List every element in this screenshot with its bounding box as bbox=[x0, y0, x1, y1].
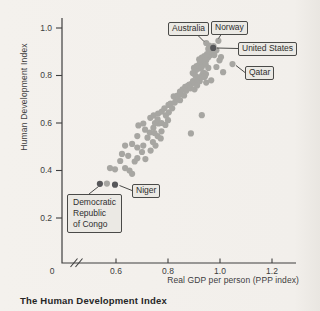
leader-australia bbox=[198, 36, 204, 42]
data-point bbox=[158, 135, 164, 141]
data-point bbox=[117, 158, 123, 164]
data-point bbox=[134, 133, 140, 139]
data-point bbox=[203, 62, 209, 68]
data-point bbox=[122, 143, 128, 149]
leader-qatar bbox=[236, 66, 245, 73]
leader-niger bbox=[120, 186, 133, 191]
data-point bbox=[134, 144, 140, 150]
data-point-norway bbox=[215, 38, 221, 44]
data-point bbox=[192, 72, 198, 78]
data-point bbox=[188, 130, 194, 136]
data-point bbox=[218, 54, 224, 60]
data-point bbox=[129, 171, 135, 177]
callout-norway: Norway bbox=[211, 21, 248, 35]
callout-qatar: Qatar bbox=[245, 66, 274, 80]
data-point bbox=[142, 156, 148, 162]
callout-niger: Niger bbox=[132, 184, 160, 198]
data-point-niger bbox=[112, 182, 118, 188]
y-tick-0.2: 0.2 bbox=[30, 213, 52, 223]
data-point bbox=[132, 158, 138, 164]
figure-caption: The Human Development Index bbox=[20, 295, 167, 306]
y-tick-0.4: 0.4 bbox=[30, 165, 52, 175]
callout-drc: Democratic Republic of Congo bbox=[67, 194, 122, 233]
data-point bbox=[148, 148, 154, 154]
data-point bbox=[196, 56, 202, 62]
leader-drc bbox=[89, 187, 99, 195]
data-point bbox=[140, 143, 146, 149]
data-point bbox=[139, 149, 145, 155]
data-point bbox=[125, 153, 131, 159]
data-point bbox=[150, 139, 156, 145]
data-point bbox=[220, 69, 226, 75]
x-axis-title: Real GDP per person (PPP index) bbox=[79, 275, 299, 285]
data-point bbox=[151, 130, 157, 136]
data-point bbox=[194, 82, 200, 88]
y-tick-0.8: 0.8 bbox=[30, 70, 52, 80]
scatter-points bbox=[97, 38, 236, 188]
x-tick-0: 0 bbox=[37, 266, 67, 276]
data-point bbox=[104, 181, 110, 187]
callout-australia: Australia bbox=[168, 22, 209, 36]
data-point bbox=[112, 166, 118, 172]
data-point bbox=[119, 151, 125, 157]
data-point bbox=[201, 74, 207, 80]
data-point bbox=[158, 128, 164, 134]
data-point-qatar bbox=[229, 61, 235, 67]
data-point bbox=[191, 65, 197, 71]
data-point bbox=[129, 141, 135, 147]
y-tick-1.0: 1.0 bbox=[30, 23, 52, 33]
data-point bbox=[199, 112, 205, 118]
data-point bbox=[140, 120, 146, 126]
callout-united-states: United States bbox=[238, 42, 297, 56]
data-point bbox=[158, 120, 164, 126]
data-point bbox=[213, 64, 219, 70]
data-point bbox=[203, 80, 209, 86]
y-tick-0.6: 0.6 bbox=[30, 118, 52, 128]
hdi-scatter-figure: Human Development Index 1.0 0.8 0.6 0.4 … bbox=[0, 0, 310, 311]
data-point-united-states bbox=[210, 45, 216, 51]
data-point-democratic bbox=[97, 181, 103, 187]
leader-united-states bbox=[217, 48, 238, 49]
